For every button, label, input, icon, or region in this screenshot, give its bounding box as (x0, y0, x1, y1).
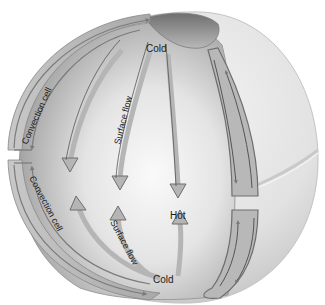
label-hot: Hot (170, 210, 186, 221)
label-cold-top: Cold (146, 43, 167, 54)
convection-diagram: Cold Hot Cold Surface flow Surface flow … (0, 0, 325, 305)
label-cold-bottom: Cold (153, 274, 174, 285)
